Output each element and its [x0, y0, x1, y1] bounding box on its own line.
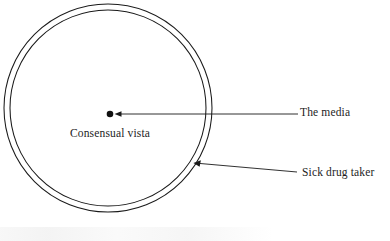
- diagram-canvas: Consensual vista The media Sick drug tak…: [0, 0, 390, 241]
- media-arrowhead-icon: [115, 111, 122, 117]
- label-the-media: The media: [300, 107, 350, 119]
- outer-circle: [4, 4, 212, 212]
- label-sick-drug-taker: Sick drug taker: [302, 167, 375, 179]
- media-point-dot: [107, 111, 114, 118]
- sick-drug-taker-leader-line: [199, 163, 297, 172]
- label-consensual-vista: Consensual vista: [70, 128, 150, 140]
- concentric-circle-diagram: [0, 0, 390, 241]
- inner-circle: [10, 10, 206, 206]
